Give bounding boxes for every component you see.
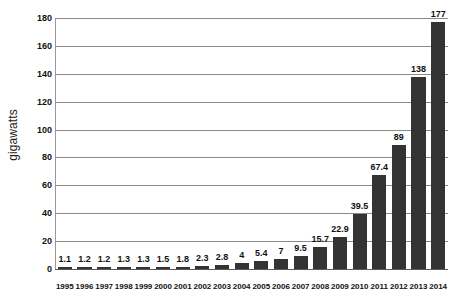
bar-value-label: 177 bbox=[431, 10, 446, 19]
bar-value-label: 1.5 bbox=[157, 255, 170, 264]
bar-group: 5.4 bbox=[254, 18, 268, 269]
y-tick-label: 140 bbox=[22, 69, 52, 78]
x-tick-label: 1995 bbox=[56, 283, 74, 291]
axis-baseline bbox=[55, 269, 448, 270]
y-tick-label: 180 bbox=[22, 14, 52, 23]
x-tick-label: 2007 bbox=[292, 283, 310, 291]
y-axis-title-label: gigawatts bbox=[6, 109, 20, 161]
bar-value-label: 2.8 bbox=[216, 253, 229, 262]
bar bbox=[392, 145, 406, 269]
bar-group: 15.7 bbox=[313, 18, 327, 269]
bar bbox=[274, 259, 288, 269]
x-tick-label: 1996 bbox=[76, 283, 94, 291]
bar-value-label: 1.8 bbox=[176, 255, 189, 264]
x-tick-label: 2009 bbox=[331, 283, 349, 291]
x-tick-label: 2011 bbox=[371, 283, 388, 291]
bar-value-label: 39.5 bbox=[351, 202, 369, 211]
x-tick-label: 2000 bbox=[154, 283, 172, 291]
bar-value-label: 1.2 bbox=[78, 255, 91, 264]
bar bbox=[97, 267, 111, 269]
bar bbox=[372, 175, 386, 269]
y-tick-label: 40 bbox=[22, 209, 52, 218]
bar-group: 1.3 bbox=[117, 18, 131, 269]
x-tick-label: 2012 bbox=[390, 283, 408, 291]
bar-group: 22.9 bbox=[333, 18, 347, 269]
bar bbox=[117, 267, 131, 269]
bar-group: 9.5 bbox=[294, 18, 308, 269]
x-tick-label: 2010 bbox=[351, 283, 369, 291]
bar-group: 89 bbox=[392, 18, 406, 269]
bar bbox=[195, 266, 209, 269]
y-tick-label: 0 bbox=[22, 265, 52, 274]
bar-value-label: 15.7 bbox=[311, 235, 329, 244]
x-tick-label: 2004 bbox=[233, 283, 251, 291]
y-tick-label: 120 bbox=[22, 97, 52, 106]
bar bbox=[77, 267, 91, 269]
bar bbox=[294, 256, 308, 269]
bar bbox=[136, 267, 150, 269]
bar bbox=[156, 267, 170, 269]
bar bbox=[235, 263, 249, 269]
x-tick-label: 2013 bbox=[410, 283, 428, 291]
y-tick-label: 100 bbox=[22, 125, 52, 134]
bar-value-label: 22.9 bbox=[331, 225, 349, 234]
bar-value-label: 5.4 bbox=[255, 249, 268, 258]
x-axis-tick-labels: 1995199619971998199920002001200220032004… bbox=[55, 283, 448, 299]
bar bbox=[431, 22, 445, 269]
bar-group: 1.2 bbox=[97, 18, 111, 269]
bar bbox=[254, 261, 268, 269]
bar-group: 39.5 bbox=[353, 18, 367, 269]
bar-value-label: 9.5 bbox=[294, 244, 307, 253]
y-tick-label: 160 bbox=[22, 41, 52, 50]
bar-value-label: 2.3 bbox=[196, 254, 209, 263]
x-tick-label: 2005 bbox=[252, 283, 270, 291]
bar bbox=[215, 265, 229, 269]
bar bbox=[353, 214, 367, 269]
bar-group: 1.1 bbox=[58, 18, 72, 269]
x-tick-label: 2008 bbox=[311, 283, 329, 291]
bar bbox=[58, 267, 72, 269]
y-axis-tick-labels: 020406080100120140160180 bbox=[22, 0, 52, 304]
bar-group: 1.5 bbox=[156, 18, 170, 269]
x-tick-label: 1998 bbox=[115, 283, 133, 291]
x-tick-label: 1999 bbox=[135, 283, 153, 291]
bar bbox=[313, 247, 327, 269]
bar-value-label: 1.1 bbox=[59, 255, 72, 264]
x-tick-label: 1997 bbox=[95, 283, 113, 291]
x-tick-label: 2001 bbox=[174, 283, 192, 291]
bar-value-label: 7 bbox=[278, 247, 283, 256]
bar-group: 7 bbox=[274, 18, 288, 269]
bar-value-label: 4 bbox=[239, 251, 244, 260]
bar bbox=[411, 77, 425, 269]
y-tick-label: 80 bbox=[22, 153, 52, 162]
bar-value-label: 1.3 bbox=[137, 255, 150, 264]
bar-group: 1.2 bbox=[77, 18, 91, 269]
x-tick-label: 2006 bbox=[272, 283, 290, 291]
y-tick-label: 60 bbox=[22, 181, 52, 190]
x-tick-label: 2002 bbox=[193, 283, 211, 291]
bar-value-label: 138 bbox=[411, 65, 426, 74]
bar-value-label: 89 bbox=[394, 133, 404, 142]
bar-group: 2.8 bbox=[215, 18, 229, 269]
bar-group: 1.8 bbox=[176, 18, 190, 269]
bar-value-label: 1.2 bbox=[98, 255, 111, 264]
bar-group: 2.3 bbox=[195, 18, 209, 269]
bars-layer: 1.11.21.21.31.31.51.82.32.845.479.515.72… bbox=[55, 18, 448, 269]
bar-value-label: 67.4 bbox=[370, 163, 388, 172]
bar bbox=[176, 267, 190, 270]
bar-group: 1.3 bbox=[136, 18, 150, 269]
bar-chart: gigawatts 020406080100120140160180 1.11.… bbox=[0, 0, 453, 304]
bar bbox=[333, 237, 347, 269]
bar-value-label: 1.3 bbox=[117, 255, 130, 264]
plot-area: 1.11.21.21.31.31.51.82.32.845.479.515.72… bbox=[55, 18, 448, 269]
x-tick-label: 2014 bbox=[429, 283, 447, 291]
bar-group: 4 bbox=[235, 18, 249, 269]
y-tick-label: 20 bbox=[22, 237, 52, 246]
bar-group: 67.4 bbox=[372, 18, 386, 269]
x-tick-label: 2003 bbox=[213, 283, 231, 291]
bar-group: 138 bbox=[411, 18, 425, 269]
bar-group: 177 bbox=[431, 18, 445, 269]
